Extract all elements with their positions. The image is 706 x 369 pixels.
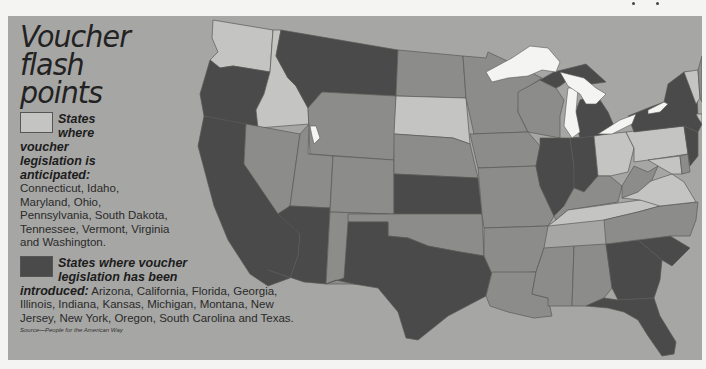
swatch-introduced: [20, 256, 53, 277]
state-OH: [594, 132, 634, 176]
scan-mark: [632, 2, 635, 5]
legend-anticipated: States where voucher legislation is anti…: [20, 112, 210, 250]
state-WY: [308, 92, 396, 160]
legend-panel: Voucher flash points States where vouche…: [20, 22, 210, 333]
swatch-anticipated: [20, 112, 53, 133]
map-title: Voucher flash points: [20, 22, 195, 106]
source-credit: Source—People for the American Way: [20, 327, 340, 333]
legend-heading: States where voucher: [58, 256, 187, 270]
scan-mark: [656, 2, 659, 5]
state-ND: [396, 50, 466, 98]
legend-heading: legislation is: [20, 154, 210, 168]
state-IA: [470, 132, 540, 168]
title-line: points: [20, 78, 195, 106]
state-CO: [330, 156, 394, 214]
state-FL: [586, 298, 676, 356]
map-graphic: Voucher flash points States where vouche…: [8, 16, 702, 360]
state-AL: [572, 244, 612, 306]
legend-heading: anticipated:: [20, 168, 210, 182]
legend-heading: legislation has been: [58, 270, 187, 284]
legend-heading: voucher: [20, 140, 210, 154]
legend-heading: introduced:: [20, 284, 89, 298]
legend-heading: where: [58, 126, 96, 140]
state-KS: [394, 174, 482, 214]
anticipated-states-list: Connecticut, Idaho, Maryland, Ohio, Penn…: [20, 182, 170, 250]
legend-heading: States: [58, 112, 96, 126]
state-WA: [210, 20, 273, 72]
legend-introduced: States where voucher legislation has bee…: [20, 256, 340, 334]
